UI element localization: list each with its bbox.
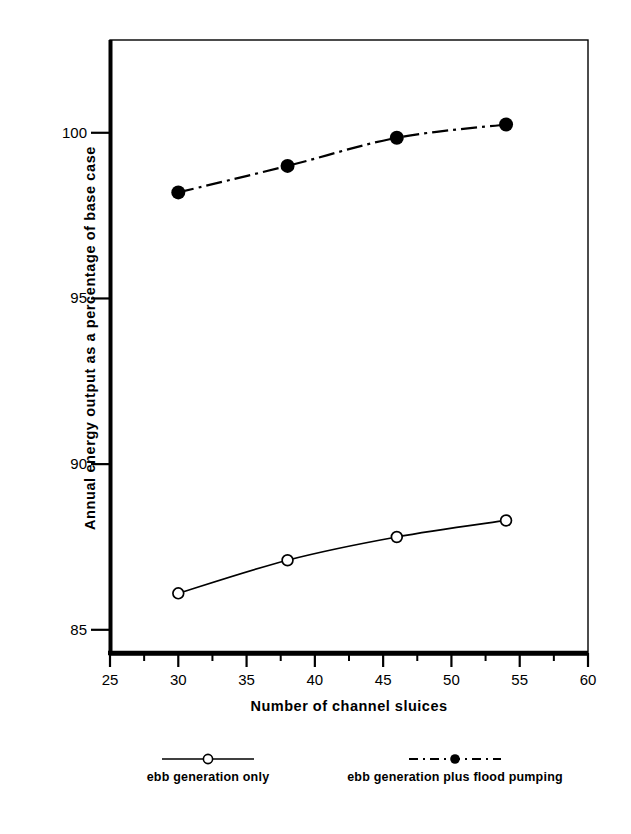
- y-tick-label: 100: [43, 125, 87, 140]
- legend-entry-ebb-generation-only: ebb generation only: [108, 752, 308, 784]
- chart-legend: ebb generation only ebb generation plus …: [0, 752, 631, 822]
- legend-swatch-open-circle: [108, 752, 308, 766]
- data-point: [282, 555, 293, 566]
- data-point: [499, 117, 513, 131]
- y-tick-label: 95: [43, 290, 87, 305]
- y-tick-marks: [91, 133, 110, 630]
- x-tick-label: 50: [431, 672, 471, 687]
- data-point: [173, 588, 184, 599]
- x-tick-label: 30: [158, 672, 198, 687]
- data-point: [391, 532, 402, 543]
- legend-swatch-filled-circle: [300, 752, 610, 766]
- x-tick-label: 45: [363, 672, 403, 687]
- x-tick-label: 25: [90, 672, 130, 687]
- plot-frame: [110, 40, 588, 655]
- legend-label: ebb generation only: [108, 770, 308, 784]
- legend-entry-ebb-generation-plus-flood-pumping: ebb generation plus flood pumping: [300, 752, 610, 784]
- x-axis-title: Number of channel sluices: [110, 698, 588, 714]
- x-tick-label: 60: [568, 672, 608, 687]
- data-point: [501, 515, 512, 526]
- legend-label: ebb generation plus flood pumping: [300, 770, 610, 784]
- data-point: [390, 131, 404, 145]
- data-point: [171, 185, 185, 199]
- x-tick-label: 35: [227, 672, 267, 687]
- x-tick-label: 40: [295, 672, 335, 687]
- x-tick-label: 55: [500, 672, 540, 687]
- y-tick-label: 85: [43, 622, 87, 637]
- data-point: [281, 159, 295, 173]
- chart-figure: Annual energy output as a percentage of …: [0, 0, 631, 834]
- y-tick-label: 90: [43, 456, 87, 471]
